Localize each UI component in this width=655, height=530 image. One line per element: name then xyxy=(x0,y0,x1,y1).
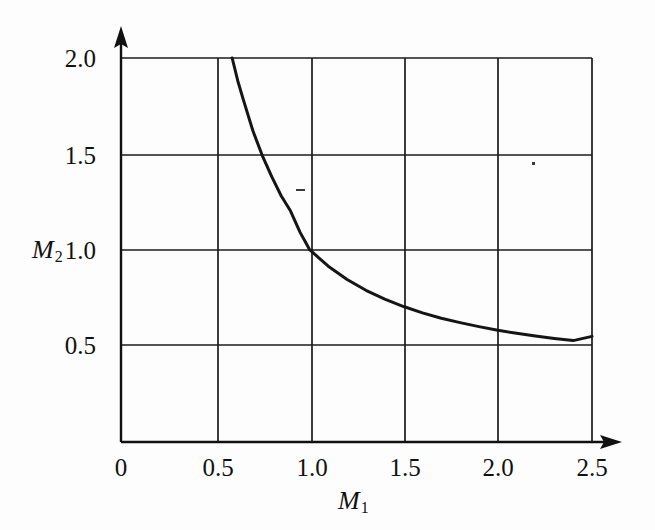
x-axis-title: M1 xyxy=(338,488,368,514)
x-tick-label-0: 0 xyxy=(115,455,128,480)
plot-canvas xyxy=(0,0,655,530)
axes xyxy=(114,26,622,449)
x-tick-label-1-0: 1.0 xyxy=(296,455,327,480)
data-series-m2-vs-m1 xyxy=(232,58,592,341)
scan-speck-center-icon xyxy=(296,189,305,191)
curve-m2-vs-m1 xyxy=(232,58,592,341)
chart-figure: 2.0 1.5 1.0 0.5 0 0.5 1.0 1.5 2.0 2.5 M2… xyxy=(0,0,655,530)
y-axis-title: M2 xyxy=(32,237,62,263)
scan-speck-upper-right-icon xyxy=(532,162,535,165)
x-axis-title-letter: M xyxy=(338,486,360,515)
y-tick-label-2-0: 2.0 xyxy=(30,46,96,71)
x-tick-label-1-5: 1.5 xyxy=(389,455,420,480)
y-axis-title-subscript: 2 xyxy=(55,248,63,265)
y-tick-label-1-5: 1.5 xyxy=(30,143,96,168)
y-tick-label-0-5: 0.5 xyxy=(30,333,96,358)
grid-lines xyxy=(121,58,592,442)
y-axis-title-letter: M xyxy=(32,235,54,264)
x-tick-label-0-5: 0.5 xyxy=(202,455,233,480)
x-tick-label-2-0: 2.0 xyxy=(482,455,513,480)
x-tick-label-2-5: 2.5 xyxy=(576,455,607,480)
x-axis-title-subscript: 1 xyxy=(361,499,369,516)
